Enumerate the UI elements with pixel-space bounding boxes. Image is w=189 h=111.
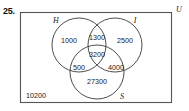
- region-value-i-and-s: 4000: [108, 63, 124, 72]
- region-value-outside: 10200: [26, 91, 46, 100]
- region-value-h-and-i: 1300: [89, 33, 105, 42]
- set-label-h: H: [52, 16, 60, 25]
- venn-figure: H I S U 1000 1300 2500 3200 500 4000 273…: [0, 0, 189, 111]
- set-label-s: S: [120, 92, 124, 101]
- region-value-h-only: 1000: [61, 36, 77, 45]
- venn-svg: H I S U 1000 1300 2500 3200 500 4000 273…: [0, 0, 189, 111]
- region-value-h-and-s: 500: [73, 63, 85, 72]
- region-value-s-only: 27300: [87, 77, 107, 86]
- set-label-universe: U: [176, 5, 183, 14]
- region-value-i-only: 2500: [117, 36, 133, 45]
- set-label-i: I: [133, 16, 137, 25]
- region-value-h-i-s: 3200: [89, 50, 105, 59]
- venn-diagram-page: 25. H I S U 1000 1300 2500 3200 500 4000…: [0, 0, 189, 111]
